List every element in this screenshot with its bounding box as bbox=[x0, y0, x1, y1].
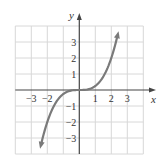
y-tick-label: 3 bbox=[71, 37, 76, 48]
x-axis-arrow-icon bbox=[149, 88, 156, 93]
x-tick-label: 3 bbox=[125, 93, 130, 104]
y-tick-label: −3 bbox=[66, 133, 77, 144]
cubic-function-graph: −3−2123321−1−2−3 x y bbox=[0, 0, 161, 159]
x-tick-label: 1 bbox=[93, 93, 98, 104]
y-tick-label: 2 bbox=[71, 53, 76, 64]
arrowhead-icon bbox=[114, 31, 120, 39]
arrowhead-icon bbox=[39, 141, 45, 149]
axes bbox=[15, 13, 156, 154]
y-axis-label: y bbox=[68, 9, 74, 21]
y-tick-label: −2 bbox=[66, 117, 77, 128]
x-tick-label: −2 bbox=[42, 93, 53, 104]
y-tick-label: 1 bbox=[71, 69, 76, 80]
x-tick-label: 2 bbox=[109, 93, 114, 104]
x-tick-label: −3 bbox=[26, 93, 37, 104]
y-tick-label: −1 bbox=[66, 101, 77, 112]
y-axis-arrow-icon bbox=[77, 13, 82, 20]
x-axis-label: x bbox=[150, 93, 156, 105]
